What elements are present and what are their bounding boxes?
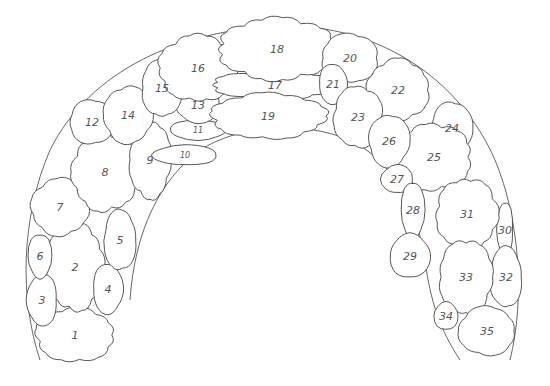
region-5 [104, 209, 136, 270]
region-shapes [26, 16, 521, 362]
region-31 [436, 179, 499, 250]
region-3 [26, 274, 56, 326]
region-outline-canvas [0, 0, 550, 386]
region-19 [210, 92, 329, 139]
region-28 [401, 183, 425, 239]
region-29 [390, 233, 430, 277]
region-4 [94, 264, 124, 314]
